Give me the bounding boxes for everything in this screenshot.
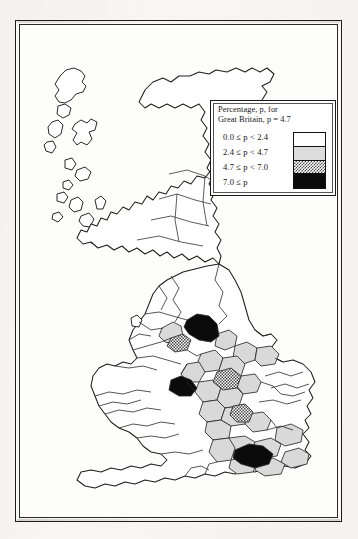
frame-rule-top: [17, 21, 340, 23]
legend-swatch-column: [293, 132, 326, 189]
great-britain-map: [19, 24, 338, 518]
legend-row-label: 2.4 ≤ p < 4.7: [218, 147, 268, 157]
legend-row-label: 0.0 ≤ p < 2.4: [218, 132, 268, 142]
frame-rule-bottom: [17, 519, 340, 521]
figure-page: Percentage, p, for Great Britain, p = 4.…: [0, 0, 358, 539]
legend-title-line2: Great Britain, p = 4.7: [218, 115, 330, 125]
legend-row-label: 7.0 ≤ p: [218, 177, 248, 187]
legend-swatch-black: [294, 174, 325, 188]
legend-swatch-white: [294, 133, 325, 147]
legend-row-label: 4.7 ≤ p < 7.0: [218, 162, 268, 172]
legend-swatch-light-gray: [294, 147, 325, 161]
legend-title-line1: Percentage, p, for: [218, 105, 330, 115]
legend-swatch-checkered: [294, 161, 325, 175]
map-legend: Percentage, p, for Great Britain, p = 4.…: [210, 100, 336, 196]
legend-title: Percentage, p, for Great Britain, p = 4.…: [218, 105, 330, 126]
